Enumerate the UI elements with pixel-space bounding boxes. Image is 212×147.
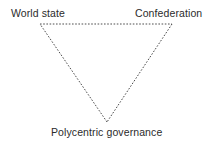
vertex-label-polycentric-governance: Polycentric governance <box>51 126 162 138</box>
edge-confederation-to-polycentric-governance <box>107 24 172 122</box>
triangle-diagram <box>0 0 212 147</box>
figure-canvas: World state Confederation Polycentric go… <box>0 0 212 147</box>
edge-world-state-to-polycentric-governance <box>40 24 107 122</box>
vertex-label-confederation: Confederation <box>135 7 202 19</box>
vertex-label-world-state: World state <box>11 7 65 19</box>
